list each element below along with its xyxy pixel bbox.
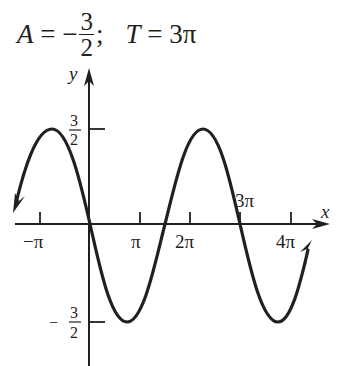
svg-text:3: 3 <box>70 304 78 321</box>
x-tick-label: 2π <box>175 231 195 252</box>
svg-text:2: 2 <box>70 131 78 148</box>
x-tick-label: π <box>131 231 141 252</box>
sine-curve <box>16 129 308 322</box>
y-axis-label: y <box>67 63 78 84</box>
y-tick-label-positive: 3 2 <box>69 112 81 148</box>
svg-text:−: − <box>49 314 58 331</box>
x-tick-label: −π <box>23 231 44 252</box>
svg-text:2: 2 <box>70 324 78 341</box>
x-axis-label: x <box>320 201 330 222</box>
svg-text:3: 3 <box>70 112 78 129</box>
y-tick-label-negative: − 3 2 <box>49 304 81 341</box>
sine-graph: −π π 2π 3π 4π x y 3 2 − 3 2 <box>0 0 346 366</box>
x-tick-label: 4π <box>276 231 296 252</box>
